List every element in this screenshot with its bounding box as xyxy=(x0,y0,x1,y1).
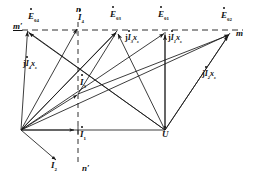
chord-e04-u xyxy=(27,31,165,130)
label-j-i1-xs: jI1xs xyxy=(168,34,182,44)
label-i1: I1 xyxy=(80,130,86,142)
phasor-o-i2 xyxy=(21,130,56,160)
label-n-prime-bottom: n′ xyxy=(82,164,90,173)
label-j-i3-xs: jI3xs xyxy=(125,34,139,44)
label-i4: I4 xyxy=(78,13,84,25)
label-e04: E04 xyxy=(28,12,39,24)
phasor-o-e01 xyxy=(21,34,164,131)
phasor-o-i3 xyxy=(21,95,77,130)
diagram-canvas xyxy=(0,0,260,187)
phasor-diagram-figure: m′ m n n′ E04 E03 E01 E02 I4 I3 I1 I2 U … xyxy=(0,0,260,187)
label-e02: E02 xyxy=(221,11,232,23)
phasor-o-e04 xyxy=(21,32,28,131)
label-u: U xyxy=(162,130,169,139)
label-j-i4-xs: jI4xs xyxy=(23,60,37,70)
phasor-o-i4 xyxy=(21,29,77,130)
label-i2: I2 xyxy=(51,161,57,173)
label-e01: E01 xyxy=(158,10,169,22)
label-m-prime-left: m′ xyxy=(13,22,23,31)
label-j-i2-xs: jI2xs xyxy=(202,70,216,80)
chord-i3-m xyxy=(78,35,229,94)
label-m-right: m xyxy=(236,29,243,38)
label-e03: E03 xyxy=(110,10,121,22)
chord-e03-origin-fan xyxy=(21,31,117,130)
label-i3: I3 xyxy=(80,78,86,90)
